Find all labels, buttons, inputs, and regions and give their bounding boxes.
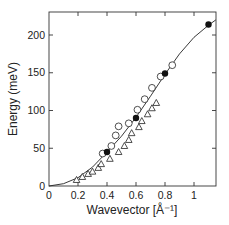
open-triangle-point xyxy=(153,99,160,105)
x-tick-label: 0.8 xyxy=(158,189,173,201)
filled-circle-point xyxy=(162,70,168,76)
y-axis-ticks: 050100150200 xyxy=(27,29,216,192)
y-tick-label: 0 xyxy=(39,180,45,192)
open-circle-point xyxy=(125,120,132,127)
open-triangle-point xyxy=(98,161,105,167)
filled-circle-point xyxy=(104,149,110,155)
dispersion-chart: 00.20.40.60.81 050100150200 Wavevector [… xyxy=(0,0,229,225)
filled-circle-markers xyxy=(104,21,212,155)
open-circle-point xyxy=(149,84,156,91)
open-triangle-point xyxy=(144,111,151,117)
open-circle-point xyxy=(108,143,115,150)
x-tick-label: 0 xyxy=(46,189,52,201)
open-circle-point xyxy=(141,96,148,103)
x-tick-label: 0.4 xyxy=(100,189,115,201)
open-triangle-point xyxy=(139,118,146,124)
open-triangle-point xyxy=(107,155,114,161)
y-tick-label: 100 xyxy=(27,104,45,116)
y-tick-label: 50 xyxy=(33,142,45,154)
open-circle-point xyxy=(112,132,119,139)
y-tick-label: 200 xyxy=(27,29,45,41)
open-circle-point xyxy=(115,123,122,130)
x-axis-label: Wavevector [Å⁻¹] xyxy=(87,202,178,217)
x-tick-label: 0.6 xyxy=(129,189,144,201)
open-triangle-point xyxy=(121,142,128,148)
x-tick-label: 0.2 xyxy=(71,189,86,201)
x-tick-label: 1 xyxy=(191,189,197,201)
y-axis-label: Energy (meV) xyxy=(6,62,20,136)
open-triangle-point xyxy=(136,124,143,130)
filled-circle-point xyxy=(205,21,211,27)
fit-curve xyxy=(49,20,216,186)
y-tick-label: 150 xyxy=(27,66,45,78)
open-circle-point xyxy=(134,106,141,113)
filled-circle-point xyxy=(133,115,139,121)
open-triangle-point xyxy=(115,149,122,155)
open-triangle-point xyxy=(125,136,132,142)
open-circle-point xyxy=(169,62,176,69)
open-triangle-markers xyxy=(73,99,159,182)
x-axis-ticks: 00.20.40.60.81 xyxy=(46,12,197,201)
plot-frame xyxy=(49,12,216,186)
open-triangle-point xyxy=(128,130,135,136)
